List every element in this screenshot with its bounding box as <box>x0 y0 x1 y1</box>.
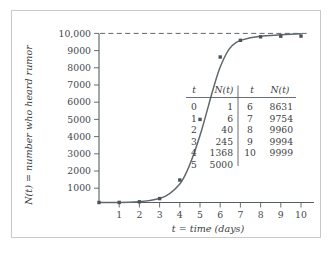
table-right-t-2: 8 <box>247 124 253 135</box>
table-left-n-0: 1 <box>227 101 233 112</box>
data-point-t10 <box>299 34 302 37</box>
x-tick-label-2: 2 <box>136 209 142 220</box>
data-point-t2 <box>138 200 141 203</box>
y-tick-label-1000: 1000 <box>67 182 91 193</box>
x-tick-label-6: 6 <box>217 209 223 220</box>
data-point-t1 <box>118 201 121 204</box>
y-tick-label-6000: 6000 <box>67 96 91 107</box>
data-point-t8 <box>259 35 262 38</box>
table-right-n-2: 9960 <box>270 124 294 135</box>
y-tick-label-2000: 2000 <box>67 165 91 176</box>
y-tick-label-7000: 7000 <box>67 79 91 90</box>
y-tick-label-3000: 3000 <box>67 148 91 159</box>
y-tick-label-4000: 4000 <box>67 131 91 142</box>
table-header-nt-right: N(t) <box>270 84 290 95</box>
x-tick-label-4: 4 <box>177 209 183 220</box>
x-tick-labels: 1 2 3 4 5 6 7 8 9 10 <box>116 209 307 220</box>
y-axis-title: N(t) = number who heard rumor <box>23 44 34 206</box>
table-right-n-1: 9754 <box>270 113 294 124</box>
x-tick-label-5: 5 <box>197 209 203 220</box>
x-tick-label-3: 3 <box>157 209 163 220</box>
table-right-n-3: 9994 <box>270 136 294 147</box>
table-left-n-5: 5000 <box>210 159 234 170</box>
y-tick-label-9000: 9000 <box>67 45 91 56</box>
y-tick-labels: 10,000 9000 8000 7000 6000 5000 4000 300… <box>58 28 91 194</box>
table-left-t-5: 5 <box>191 159 197 170</box>
table-left-t-0: 0 <box>191 101 197 112</box>
table-right-n-0: 8631 <box>270 101 293 112</box>
y-tick-marks <box>94 33 99 188</box>
data-point-t5 <box>198 118 201 121</box>
table-right-t-0: 6 <box>247 101 253 112</box>
table-left-n-4: 1368 <box>210 147 234 158</box>
data-point-t3 <box>158 197 161 200</box>
table-right-t-3: 9 <box>247 136 253 147</box>
data-point-t6 <box>219 55 222 58</box>
table-left-t-4: 4 <box>191 147 197 158</box>
table-right-t-4: 10 <box>244 147 256 158</box>
y-tick-label-10000: 10,000 <box>58 28 91 39</box>
table-header-nt-left: N(t) <box>214 84 234 95</box>
table-left-n-2: 40 <box>221 124 233 135</box>
x-tick-label-10: 10 <box>295 209 307 220</box>
table-left-t-2: 2 <box>191 124 197 135</box>
table-right-t-1: 7 <box>247 113 253 124</box>
x-axis-title: t = time (days) <box>172 223 245 234</box>
x-tick-marks <box>119 203 301 208</box>
figure-frame: N(t) = number who heard rumor 10,000 900… <box>11 10 321 238</box>
table-left-t-1: 1 <box>191 113 197 124</box>
data-point-t9 <box>279 35 282 38</box>
chart-plot-area: N(t) = number who heard rumor 10,000 900… <box>12 11 322 239</box>
table-left-n-3: 245 <box>215 136 233 147</box>
x-tick-label-9: 9 <box>278 209 284 220</box>
table-left-t-3: 3 <box>191 136 197 147</box>
table-left-n-1: 6 <box>227 113 233 124</box>
rumor-growth-chart: N(t) = number who heard rumor 10,000 900… <box>12 11 322 239</box>
table-right-n-4: 9999 <box>270 147 294 158</box>
x-tick-label-8: 8 <box>258 209 264 220</box>
x-tick-label-1: 1 <box>116 209 122 220</box>
table-header-t-left: t <box>192 84 196 95</box>
data-point-t7 <box>239 39 242 42</box>
y-tick-label-5000: 5000 <box>67 114 91 125</box>
table-header-t-right: t <box>250 84 254 95</box>
y-tick-label-8000: 8000 <box>67 62 91 73</box>
x-tick-label-7: 7 <box>237 209 243 220</box>
data-point-t4 <box>178 178 181 181</box>
data-point-t0 <box>97 201 100 204</box>
